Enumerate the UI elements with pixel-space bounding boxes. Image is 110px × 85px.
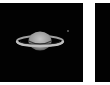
saturn-image: [0, 3, 83, 82]
moon: [67, 30, 69, 32]
image-panel-right[interactable]: [95, 3, 110, 82]
planet-body: [29, 32, 52, 51]
image-panel-saturn[interactable]: [0, 3, 83, 82]
